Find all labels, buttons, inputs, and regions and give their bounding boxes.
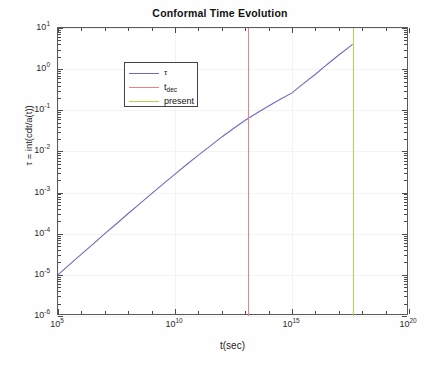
chart-title: Conformal Time Evolution <box>0 7 440 19</box>
x-axis-title: t(sec) <box>57 340 408 351</box>
tick-mark <box>409 28 410 33</box>
y-tick-label: 100 <box>36 63 50 73</box>
gridline <box>409 28 410 314</box>
x-tick-label: 105 <box>50 319 64 329</box>
x-tick-label: 1020 <box>399 319 416 329</box>
legend-swatch-tdec <box>129 87 159 88</box>
y-tick-label: 10-4 <box>34 228 50 238</box>
tdec-vertical-line <box>248 28 249 316</box>
y-tick-label: 10-6 <box>34 310 50 320</box>
present-vertical-line <box>353 28 354 316</box>
legend-label-tdec: tdec <box>164 83 177 92</box>
legend[interactable]: τ tdec present <box>124 62 198 107</box>
tick-mark <box>58 316 63 317</box>
x-tick-label: 1015 <box>282 319 299 329</box>
y-tick-label: 10-3 <box>34 187 50 197</box>
legend-item-tdec: tdec <box>129 80 193 94</box>
legend-label-present: present <box>164 97 194 106</box>
y-tick-label: 10-2 <box>34 145 50 155</box>
legend-item-present: present <box>129 94 193 108</box>
y-tick-label: 10-1 <box>34 104 50 114</box>
tick-mark <box>409 309 410 314</box>
y-tick-label: 101 <box>36 22 50 32</box>
legend-item-tau: τ <box>129 66 193 80</box>
legend-label-tau: τ <box>164 69 167 77</box>
plot-area: τ tdec present <box>57 27 408 315</box>
series-layer <box>58 28 409 316</box>
tick-mark <box>402 316 407 317</box>
tau-curve <box>58 44 353 274</box>
legend-swatch-tau <box>129 73 159 74</box>
y-axis-title: τ = int(cdt/a(t)) <box>23 26 34 246</box>
x-tick-label: 1010 <box>165 319 182 329</box>
figure-canvas: Conformal Time Evolution 101 100 10-1 10… <box>0 0 440 366</box>
gridline <box>58 316 407 317</box>
y-tick-label: 10-5 <box>34 269 50 279</box>
legend-swatch-present <box>129 101 159 102</box>
